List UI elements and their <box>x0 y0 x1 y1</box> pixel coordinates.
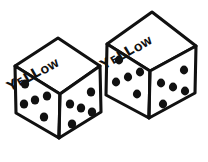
pip <box>159 100 167 109</box>
left-die: YELLOW <box>3 38 101 138</box>
pip <box>88 108 96 117</box>
pip <box>124 73 132 82</box>
pip <box>136 68 144 77</box>
pip <box>181 87 189 96</box>
dice-illustration: YELLOW <box>0 0 208 162</box>
pip <box>133 90 141 99</box>
pip <box>115 56 123 65</box>
pip <box>43 92 51 101</box>
pip <box>68 120 76 129</box>
right-die-center-edge <box>149 71 150 118</box>
pip <box>87 88 95 97</box>
pip <box>169 83 177 92</box>
pip <box>21 80 29 89</box>
pip <box>66 100 74 109</box>
right-die: YELLOW <box>96 12 196 118</box>
pip <box>31 96 39 105</box>
drawing-canvas: YELLOW <box>0 0 208 162</box>
pip <box>77 104 85 113</box>
pip <box>180 66 188 75</box>
pip <box>20 100 28 109</box>
pip <box>112 78 120 87</box>
pip <box>40 113 48 122</box>
left-die-center-edge <box>59 94 60 138</box>
pip <box>157 79 165 88</box>
